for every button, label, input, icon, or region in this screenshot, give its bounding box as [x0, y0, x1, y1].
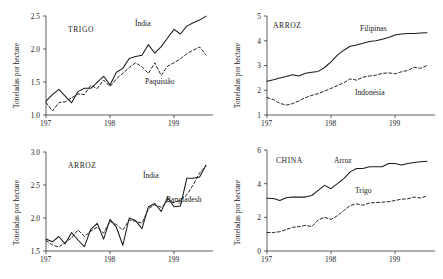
panel-title-arroz-filipinas: ARROZ: [273, 21, 302, 30]
chart-panel-arroz-filipinas: Toneladas por hectare 1 2 3 4 5 197 198 …: [221, 0, 443, 140]
series-label-trigo-china: Trigo: [355, 186, 372, 195]
y-tick-label-arroz-filipinas-4: 5: [245, 12, 261, 21]
series-label-arroz-china: Arroz: [334, 156, 352, 165]
y-tick-label-china-0: 0: [245, 247, 261, 256]
x-tick-label-china-0: 197: [261, 255, 272, 264]
yield-charts-figure: Toneladas por hectare 1.0 1.5 2.0 2.5 19…: [0, 0, 443, 279]
y-tick-label-china-1: 2: [245, 213, 261, 222]
series-label-india-trigo: Índia: [135, 19, 151, 28]
series-label-filipinas: Filipinas: [360, 24, 387, 33]
x-tick-label-trigo-1: 198: [104, 119, 115, 128]
x-tick-label-trigo-0: 197: [40, 119, 51, 128]
series-label-bangladesh: Bangladesh: [166, 195, 201, 204]
x-tick-label-china-2: 199: [389, 255, 400, 264]
y-tick-label-arroz-india-2: 2.5: [22, 181, 40, 190]
axes-arroz-filipinas: [264, 16, 435, 118]
y-tick-label-china-2: 4: [245, 180, 261, 189]
y-tick-label-arroz-india-3: 3.0: [22, 148, 40, 157]
y-tick-label-arroz-india-1: 2.0: [22, 214, 40, 223]
series-label-india-arroz: Índia: [143, 171, 159, 180]
x-tick-label-trigo-2: 199: [168, 119, 179, 128]
x-tick-label-arroz-filipinas-2: 199: [389, 119, 400, 128]
y-axis-title-china: Toneladas por hectare: [234, 180, 242, 245]
chart-panel-trigo: Toneladas por hectare 1.0 1.5 2.0 2.5 19…: [0, 0, 221, 140]
y-tick-label-trigo-2: 2.0: [22, 45, 40, 54]
axes-china: [264, 150, 435, 254]
series-label-indonesia: Indonésia: [355, 88, 385, 97]
series-line-india-arroz: [46, 165, 206, 247]
x-tick-label-china-1: 198: [325, 255, 336, 264]
y-tick-label-arroz-india-0: 1.5: [22, 247, 40, 256]
panel-title-china: CHINA: [276, 156, 303, 165]
x-tick-label-arroz-filipinas-0: 197: [261, 119, 272, 128]
y-tick-label-trigo-0: 1.0: [22, 111, 40, 120]
x-tick-label-arroz-india-0: 197: [40, 255, 51, 264]
y-tick-label-arroz-filipinas-0: 1: [245, 111, 261, 120]
series-line-trigo-china: [267, 196, 427, 233]
series-line-indonesia: [267, 66, 427, 106]
x-tick-label-arroz-filipinas-1: 198: [325, 119, 336, 128]
panel-title-arroz-india: ARROZ: [68, 161, 97, 170]
y-tick-label-china-3: 6: [245, 146, 261, 155]
y-tick-label-arroz-filipinas-2: 3: [245, 61, 261, 70]
x-tick-label-arroz-india-1: 198: [104, 255, 115, 264]
x-tick-label-arroz-india-2: 199: [168, 255, 179, 264]
y-tick-label-arroz-filipinas-3: 4: [245, 37, 261, 46]
y-tick-label-arroz-filipinas-1: 2: [245, 86, 261, 95]
series-line-arroz-china: [267, 161, 427, 200]
y-axis-title-arroz-filipinas: Toneladas por hectare: [234, 43, 242, 108]
series-line-filipinas: [267, 33, 427, 82]
y-axis-title-trigo: Toneladas por hectare: [13, 43, 21, 108]
chart-panel-arroz-india: Toneladas por hectare 1.5 2.0 2.5 3.0 19…: [0, 140, 221, 279]
y-tick-label-trigo-1: 1.5: [22, 78, 40, 87]
series-label-paquistao-trigo: Paquistão: [145, 77, 175, 86]
panel-title-trigo: TRIGO: [68, 25, 94, 34]
chart-panel-china: Toneladas por hectare 0 2 4 6 197 198 19…: [221, 140, 443, 279]
y-axis-title-arroz-india: Toneladas por hectare: [13, 180, 21, 245]
y-tick-label-trigo-3: 2.5: [22, 12, 40, 21]
